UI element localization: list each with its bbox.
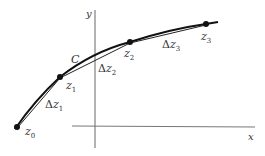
label-z0: z0 [24,125,35,140]
point-z2 [127,39,133,45]
label-delta-z1: Δz1 [45,98,63,113]
point-z0 [14,124,20,130]
point-z3 [203,21,209,27]
svg-text:z3: z3 [200,30,211,45]
svg-text:z0: z0 [24,125,35,140]
x-axis [72,126,255,127]
svg-text:z1: z1 [65,79,76,94]
label-delta-z3: Δz3 [162,38,180,53]
label-z2: z2 [123,47,134,62]
curve-c [15,22,218,129]
contour-diagram: y x C z0 z1 z2 z3 Δz1 Δz2 Δz3 [0,0,265,156]
label-delta-z2: Δz2 [98,62,116,77]
point-z1 [57,74,63,80]
svg-text:Δz2: Δz2 [98,62,116,77]
svg-text:z2: z2 [123,47,134,62]
label-z1: z1 [65,79,76,94]
curve-label: C [71,53,80,66]
svg-text:Δz3: Δz3 [162,38,180,53]
svg-text:Δz1: Δz1 [45,98,63,113]
x-axis-label: x [248,131,254,142]
y-axis-label: y [85,8,92,19]
label-z3: z3 [200,30,211,45]
